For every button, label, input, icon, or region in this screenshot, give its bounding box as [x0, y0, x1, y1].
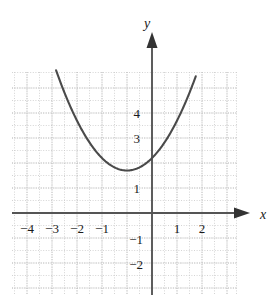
x-tick-label: 2 — [199, 221, 206, 236]
x-tick-labels: −4 −3 −2 −1 1 2 — [20, 221, 205, 236]
grid — [12, 72, 237, 295]
y-tick-labels: 4 3 1 −1 −2 — [129, 106, 143, 272]
y-tick-label: 3 — [134, 131, 141, 146]
y-tick-label: −2 — [129, 257, 143, 272]
x-tick-label: −3 — [45, 221, 59, 236]
x-tick-label: −2 — [70, 221, 84, 236]
y-tick-label: −1 — [129, 232, 143, 247]
y-tick-label: 4 — [134, 106, 141, 121]
y-axis-label: y — [142, 16, 151, 31]
x-axis-label: x — [259, 207, 267, 222]
x-tick-label: −4 — [20, 221, 34, 236]
y-axis — [147, 32, 158, 295]
x-axis — [12, 208, 250, 219]
x-tick-label: −1 — [95, 221, 109, 236]
y-tick-label: 1 — [134, 181, 141, 196]
x-tick-label: 1 — [174, 221, 181, 236]
coordinate-plane: y x −4 −3 −2 −1 1 2 4 3 1 −1 −2 — [0, 0, 270, 295]
graph-figure: y x −4 −3 −2 −1 1 2 4 3 1 −1 −2 — [0, 0, 270, 295]
